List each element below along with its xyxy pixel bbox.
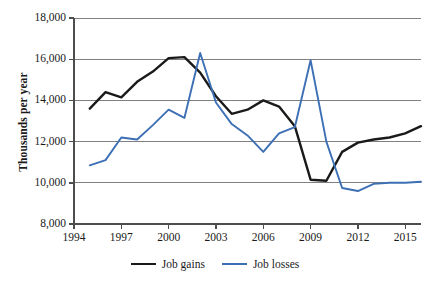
chart-legend: Job gains Job losses <box>0 258 430 270</box>
legend-label-job-losses: Job losses <box>253 258 299 270</box>
legend-item-job-losses: Job losses <box>222 258 299 270</box>
legend-swatch-job-gains <box>131 263 156 265</box>
legend-item-job-gains: Job gains <box>131 258 205 270</box>
chart-plot-area <box>0 0 430 284</box>
series-line-job-losses <box>90 53 421 191</box>
legend-swatch-job-losses <box>222 263 247 265</box>
legend-label-job-gains: Job gains <box>162 258 205 270</box>
chart-container: Thousands per year 18,00016,00014,00012,… <box>0 0 430 284</box>
series-line-job-gains <box>90 57 421 181</box>
